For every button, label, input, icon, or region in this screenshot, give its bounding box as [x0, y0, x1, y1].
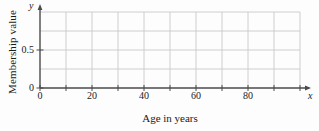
membership-value-chart: Membership value Age in years 020406080 … — [0, 0, 319, 131]
x-axis-symbol: x — [308, 90, 312, 101]
y-axis-arrowhead — [38, 4, 43, 10]
x-tick-label: 40 — [129, 90, 159, 101]
x-tick-label: 80 — [233, 90, 263, 101]
grid-lines — [40, 12, 300, 88]
x-tick-label: 20 — [77, 90, 107, 101]
y-tick-label: 0 — [8, 82, 34, 93]
tick-marks — [37, 50, 301, 91]
y-tick-label: 0.5 — [8, 44, 34, 55]
plot-area — [0, 0, 319, 131]
y-axis-symbol: y — [29, 0, 33, 11]
x-tick-label: 60 — [181, 90, 211, 101]
axis-lines — [38, 4, 311, 90]
